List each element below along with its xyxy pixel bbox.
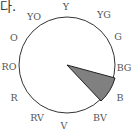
hue-label-ro: RO xyxy=(2,61,17,72)
hue-label-rv: RV xyxy=(30,112,44,123)
hue-label-bg: BG xyxy=(117,62,132,73)
hue-label-g: G xyxy=(114,31,122,42)
hue-label-b: B xyxy=(117,92,124,103)
hue-label-v: V xyxy=(60,120,68,131)
hue-label-y: Y xyxy=(62,1,70,12)
hue-label-bv: BV xyxy=(93,112,107,123)
hue-label-o: O xyxy=(10,32,18,43)
color-wheel: YYGGBGBBVVRVRROOYO xyxy=(0,0,136,131)
hue-label-r: R xyxy=(10,92,18,103)
highlighted-sector-b xyxy=(67,65,115,101)
hue-label-yg: YG xyxy=(96,9,111,20)
hue-labels: YYGGBGBBVVRVRROOYO xyxy=(2,1,132,131)
hue-label-yo: YO xyxy=(26,11,41,22)
